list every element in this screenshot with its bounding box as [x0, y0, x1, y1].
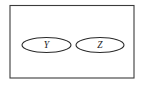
venn-diagram: Y Z	[0, 0, 143, 86]
set-z-label: Z	[97, 40, 103, 50]
